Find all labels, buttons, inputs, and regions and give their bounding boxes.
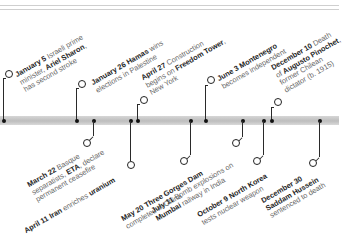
leader-line	[263, 121, 264, 155]
leader-line	[76, 88, 77, 121]
event-label-apr27: April 27 Construction begins on Freedom …	[140, 30, 231, 98]
top-rule	[0, 5, 339, 6]
event-marker-ring[interactable]	[5, 70, 13, 78]
leader-line	[137, 104, 140, 105]
event-marker-dot	[75, 119, 79, 123]
event-marker-dot	[204, 119, 208, 123]
leader-line	[3, 78, 4, 121]
event-label-dec30: December 30 Saddam Hussein sentenced to …	[260, 167, 327, 221]
event-marker-ring[interactable]	[253, 157, 261, 165]
event-marker-dot	[2, 119, 6, 123]
leader-line	[242, 121, 243, 137]
leader-line	[130, 121, 131, 161]
leader-line	[319, 121, 320, 157]
event-marker-ring[interactable]	[78, 80, 86, 88]
leader-line	[76, 88, 79, 89]
leader-line	[205, 85, 208, 86]
leader-line	[271, 107, 274, 108]
event-label-dec10: December 10 Death of Augusto Pinochet, f…	[270, 28, 346, 95]
event-marker-dot	[270, 119, 274, 123]
event-marker-ring[interactable]	[232, 139, 240, 147]
leader-line	[3, 78, 6, 79]
event-marker-ring[interactable]	[180, 157, 188, 165]
event-marker-ring[interactable]	[127, 161, 135, 169]
event-marker-ring[interactable]	[309, 159, 317, 167]
leader-line	[205, 85, 206, 121]
leader-line	[190, 121, 191, 155]
event-marker-ring[interactable]	[274, 98, 282, 106]
event-marker-ring[interactable]	[207, 76, 215, 84]
event-marker-ring[interactable]	[140, 96, 148, 104]
event-marker-dot	[136, 119, 140, 123]
timeline-bar	[0, 116, 339, 125]
leader-line	[93, 121, 94, 136]
top-rule-2	[0, 9, 339, 10]
